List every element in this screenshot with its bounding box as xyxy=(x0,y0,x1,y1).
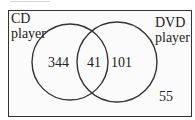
neither-count: 55 xyxy=(159,90,173,104)
both-count: 41 xyxy=(87,56,101,70)
cd-only-count: 344 xyxy=(48,56,69,70)
dvd-only-count: 101 xyxy=(111,56,132,70)
dvd-label-line2: player xyxy=(155,30,190,45)
dvd-label-line1: DVD xyxy=(155,15,190,30)
cd-player-label: CD player xyxy=(11,11,46,41)
cd-label-line2: player xyxy=(11,26,46,41)
cd-label-line1: CD xyxy=(11,11,46,26)
dvd-player-label: DVD player xyxy=(155,15,190,45)
